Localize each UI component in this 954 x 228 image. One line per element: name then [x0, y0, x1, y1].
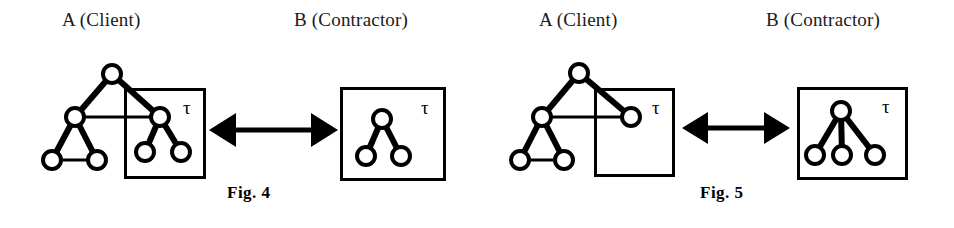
fig4-client-node — [103, 65, 121, 83]
fig5-arrow-shaft — [698, 126, 774, 131]
fig5-contractor-group: τ — [799, 89, 907, 179]
fig5-arrow-head-left — [682, 112, 708, 144]
fig5-client-group: τ — [511, 64, 674, 176]
fig5-double-arrow — [682, 112, 790, 144]
fig5-contractor-node — [866, 146, 884, 164]
fig5-client-node — [622, 108, 640, 126]
fig5-contractor-node — [833, 146, 851, 164]
fig4-client-node — [151, 108, 169, 126]
graph-diagram-svg: ττττ — [0, 0, 954, 228]
fig4-client-tau-box — [126, 90, 205, 178]
fig4-client-node — [88, 151, 106, 169]
fig5-arrow-head-right — [764, 112, 790, 144]
fig4-arrow-head-left — [209, 113, 236, 147]
fig5-client-tau-label: τ — [652, 97, 660, 118]
fig4-double-arrow — [209, 113, 338, 147]
fig5-client-node — [570, 64, 588, 82]
fig5-client-node — [555, 151, 573, 169]
fig5-client-node — [533, 108, 551, 126]
fig5-client-tau-box — [596, 90, 674, 176]
fig5-contractor-tau-label: τ — [882, 96, 890, 117]
fig4-client-node — [43, 151, 61, 169]
figure-canvas: A (Client) B (Contractor) Fig. 4 A (Clie… — [0, 0, 954, 228]
fig4-client-node — [172, 143, 190, 161]
fig5-client-node — [511, 151, 529, 169]
fig4-client-group: τ — [43, 65, 205, 178]
fig4-client-node — [136, 143, 154, 161]
fig4-arrow-shaft — [226, 128, 321, 133]
fig4-contractor-tau-label: τ — [421, 97, 429, 118]
fig4-contractor-group: τ — [342, 89, 445, 180]
fig5-contractor-node — [832, 102, 850, 120]
fig4-contractor-node — [373, 110, 391, 128]
fig4-arrow-head-right — [311, 113, 338, 147]
fig4-contractor-node — [357, 147, 375, 165]
fig4-client-tau-label: τ — [183, 97, 191, 118]
fig4-contractor-node — [392, 147, 410, 165]
fig5-contractor-node — [806, 146, 824, 164]
fig4-client-node — [66, 108, 84, 126]
